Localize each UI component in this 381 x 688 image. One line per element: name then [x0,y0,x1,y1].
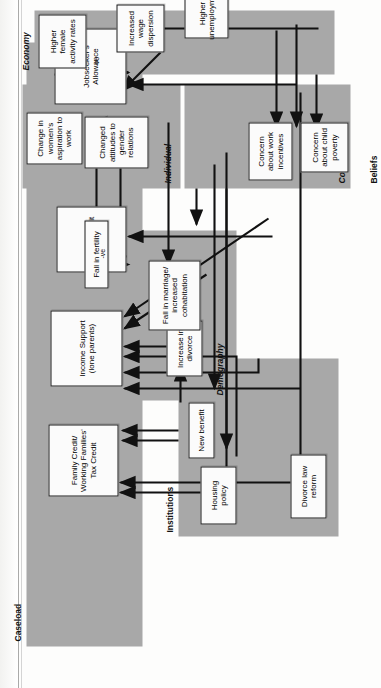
node-label: Divorce law reform [299,458,318,514]
node-higher-female-activity-rates[interactable]: Higher female activity rates [38,14,86,68]
node-label: Increase in divorce [175,324,194,372]
zone-label-beliefs: Beliefs [368,155,378,183]
node-family-credit-wftc[interactable]: Family Credit/ Working Families' Tax Cre… [48,424,118,496]
node-divorce-law-reform[interactable]: Divorce law reform [290,454,326,518]
node-label: Fall in marriage/ increased cohabitation [160,264,188,326]
node-concern-child-poverty[interactable]: Concern about child poverty [300,122,348,172]
scanned-page: Locating Policy Impact within Causal Cha… [0,0,381,688]
node-label: Increased wage dispersion [126,8,154,48]
node-label: New benefit [196,409,205,451]
node-fall-in-marriage-cohabitation[interactable]: Fall in marriage/ increased cohabitation [148,260,200,330]
node-income-support[interactable]: Income Support (lone parents) [50,310,122,386]
node-new-benefit[interactable]: New benefit [188,402,214,458]
node-label: Housing policy [209,470,228,520]
zone-label-economy: Economy [20,32,30,70]
node-changed-attitudes-gender[interactable]: Changed attitudes to gender relations [84,116,148,168]
node-housing-policy[interactable]: Housing policy [200,466,236,524]
zone-label-caseload: Caseload [12,603,22,641]
causal-chain-diagram: Caseload Institutions Demography Beliefs… [0,0,381,688]
node-concern-work-incentives[interactable]: Concern about work incentives [248,122,292,180]
node-label: Change in women's aspiration to work [35,116,73,160]
rotated-figure-container: Caseload Institutions Demography Beliefs… [0,0,381,688]
node-label: Changed attitudes to gender relations [97,120,135,164]
node-label: Concern about work incentives [256,126,284,176]
node-label: Higher female activity rates [48,18,76,64]
edge-label-negative-child-benefit: -ve [98,248,105,258]
zone-label-institutions: Institutions [164,486,174,532]
node-higher-unemployment[interactable]: Higher unemployment [184,0,228,38]
node-change-women-aspiration-work[interactable]: Change in women's aspiration to work [26,112,82,164]
node-label: Higher unemployment [197,0,216,39]
node-increased-wage-dispersion[interactable]: Increased wage dispersion [116,4,164,52]
node-label: Family Credit/ Working Families' Tax Cre… [69,428,97,492]
node-label: Income Support (lone parents) [77,314,96,382]
node-label: Concern about child poverty [310,126,338,168]
edge-label-negative-jsa: -ve [92,56,99,66]
zone-label-demography: Demography [214,343,224,395]
zone-label-individual: Individual [162,143,172,183]
